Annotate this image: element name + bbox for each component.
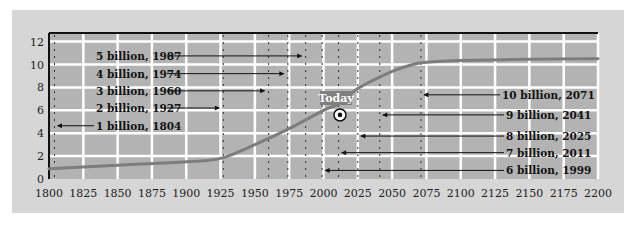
y-tick-label: 8	[37, 81, 44, 94]
y-axis-tick-labels: 024681012	[30, 36, 44, 186]
y-tick-label: 12	[30, 36, 44, 49]
y-tick-label: 6	[37, 104, 44, 117]
x-tick-label: 1925	[207, 187, 235, 200]
x-tick-label: 1900	[172, 187, 200, 200]
milestone-label: 8 billion, 2025	[506, 130, 591, 142]
y-tick-label: 2	[37, 150, 44, 163]
x-tick-label: 1875	[138, 187, 166, 200]
x-tick-label: 2125	[481, 187, 509, 200]
x-tick-label: 1850	[104, 187, 132, 200]
x-tick-label: 2000	[310, 187, 338, 200]
milestone-label: 1 billion, 1804	[96, 120, 181, 132]
x-tick-label: 2025	[344, 187, 372, 200]
y-tick-label: 4	[37, 127, 44, 140]
y-tick-label: 0	[37, 173, 44, 186]
x-tick-label: 2175	[550, 187, 578, 200]
x-tick-label: 1825	[69, 187, 97, 200]
x-tick-label: 2200	[584, 187, 612, 200]
today-label: Today	[318, 92, 354, 105]
x-tick-label: 1975	[275, 187, 303, 200]
x-tick-label: 1950	[241, 187, 269, 200]
milestone-label: 9 billion, 2041	[506, 109, 591, 121]
x-tick-label: 2100	[447, 187, 475, 200]
population-chart: 1800182518501875190019251950197520002025…	[0, 0, 636, 226]
milestone-label: 7 billion, 2011	[506, 147, 591, 159]
x-tick-label: 2150	[515, 187, 543, 200]
today-dot-icon	[338, 113, 343, 118]
milestone-label: 6 billion, 1999	[506, 164, 591, 176]
x-tick-label: 2050	[378, 187, 406, 200]
x-tick-label: 2075	[412, 187, 440, 200]
milestone-label: 10 billion, 2071	[502, 89, 595, 101]
x-axis-tick-labels: 1800182518501875190019251950197520002025…	[35, 187, 612, 200]
y-tick-label: 10	[30, 59, 44, 72]
x-tick-label: 1800	[35, 187, 63, 200]
